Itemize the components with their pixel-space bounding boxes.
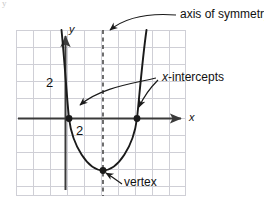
axis-of-symmetry-label: axis of symmetry: [180, 8, 264, 20]
axis-of-symmetry-leader: [110, 15, 176, 30]
x-intercepts-label-rest: -intercepts: [168, 70, 224, 84]
y-axis-tick-label: 2: [46, 76, 53, 89]
x-intercept-right-point: [134, 115, 141, 122]
x-axis-label: x: [189, 112, 195, 123]
parabola-figure: y: [0, 0, 264, 205]
vertex-point: [100, 167, 107, 174]
x-intercepts-label: x-intercepts: [162, 71, 224, 83]
vertex-label: vertex: [124, 176, 157, 188]
x-intercept-left-point: [66, 115, 73, 122]
x-axis-tick-label: 2: [76, 124, 83, 137]
y-axis-label: y: [69, 24, 75, 35]
